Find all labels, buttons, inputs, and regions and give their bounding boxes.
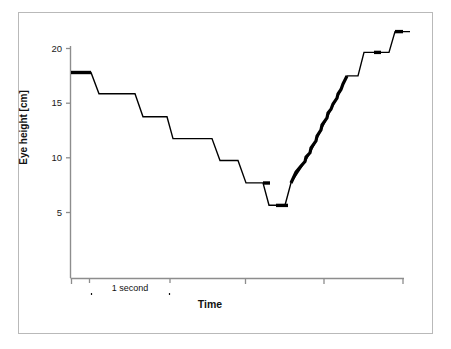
y-tick-label-15: 15 bbox=[42, 97, 62, 108]
bold-trace-segments bbox=[71, 32, 403, 206]
x-axis-title: Time bbox=[150, 298, 270, 310]
eye-height-trace bbox=[71, 32, 410, 206]
figure-container: 20 15 10 5 Eye height [cm] Time 1 second bbox=[0, 0, 451, 349]
y-tick-label-10: 10 bbox=[42, 152, 62, 163]
scale-bar-label: 1 second bbox=[88, 283, 172, 293]
y-tick-label-5: 5 bbox=[42, 207, 62, 218]
chart-plot bbox=[0, 0, 451, 349]
y-axis-title: Eye height [cm] bbox=[18, 58, 29, 198]
bold-rising-staircase bbox=[291, 76, 347, 183]
y-tick-label-20: 20 bbox=[42, 43, 62, 54]
